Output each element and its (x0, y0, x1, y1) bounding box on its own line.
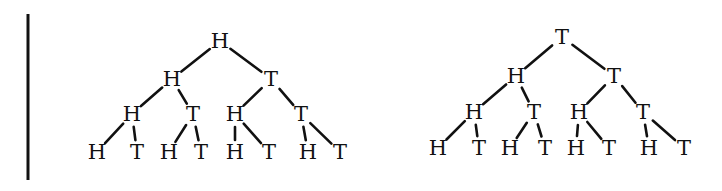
tree-edge (587, 85, 605, 103)
node-heads: H (160, 140, 178, 164)
node-heads: H (570, 100, 588, 124)
tree-edge (577, 125, 578, 136)
node-tails: T (262, 140, 276, 164)
tree-edge (447, 121, 465, 139)
node-tails: T (636, 100, 650, 124)
node-heads: H (640, 136, 658, 160)
node-tails: T (264, 67, 278, 91)
tree-edge (572, 45, 604, 69)
node-heads: H (299, 140, 317, 164)
tree-edge (230, 49, 261, 72)
node-heads: H (211, 29, 229, 53)
node-heads: H (465, 100, 483, 124)
node-tails: T (472, 136, 486, 160)
node-heads: H (567, 136, 585, 160)
tree-edge (587, 122, 601, 139)
node-tails: T (607, 64, 621, 88)
node-heads: H (123, 102, 141, 126)
node-heads: H (429, 136, 447, 160)
tree-edge (244, 124, 261, 143)
tree-edge (181, 49, 209, 72)
coin-flip-tree-diagram: HHTHTHTHTHTHTHT THTHTHTHTHTHTHT (0, 0, 722, 191)
tree-edge (105, 124, 123, 144)
node-tails: T (527, 100, 541, 124)
node-tails: T (186, 102, 200, 126)
tree-edge (244, 88, 262, 106)
node-tails: T (602, 136, 616, 160)
node-heads: H (507, 64, 525, 88)
tree-edge (280, 89, 294, 105)
node-heads: H (226, 102, 244, 126)
node-heads: H (501, 136, 519, 160)
node-tails: T (333, 140, 347, 164)
tree-edge (134, 127, 136, 140)
tree-edge (476, 125, 478, 136)
node-heads: H (163, 67, 181, 91)
node-tails: T (555, 25, 569, 49)
node-heads: H (226, 140, 244, 164)
node-tails: T (294, 102, 308, 126)
tree-edge (645, 125, 647, 136)
tree-edge (303, 127, 305, 140)
node-heads: H (88, 140, 106, 164)
tree-edge (196, 127, 199, 141)
node-tails: T (130, 140, 144, 164)
tree-edge (483, 85, 506, 105)
tree-edge (538, 124, 542, 136)
node-tails: T (538, 136, 552, 160)
tree-edge (141, 88, 162, 107)
node-tails: T (677, 136, 691, 160)
left-tree: HHTHTHTHTHTHTHT (88, 29, 347, 164)
node-tails: T (194, 140, 208, 164)
tree-edge (525, 45, 552, 68)
right-tree: THTHTHTHTHTHTHT (429, 25, 691, 160)
tree-edge (622, 86, 635, 103)
